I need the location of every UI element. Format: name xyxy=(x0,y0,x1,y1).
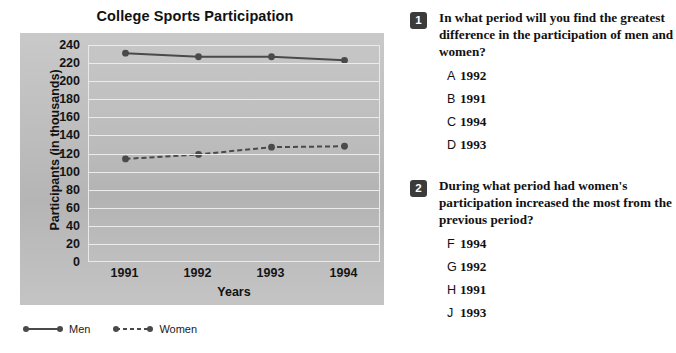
question-2-option-f[interactable]: F 1994 xyxy=(447,236,676,252)
question-1: 1 In what period will you find the great… xyxy=(408,10,676,160)
question-1-body: In what period will you find the greates… xyxy=(439,10,676,153)
option-text: 1994 xyxy=(460,236,486,252)
question-1-option-b[interactable]: B 1991 xyxy=(447,91,676,107)
chart-panel: College Sports Participation Participant… xyxy=(0,0,400,353)
option-letter: F xyxy=(447,237,460,251)
option-text: 1994 xyxy=(460,114,486,130)
option-text: 1991 xyxy=(460,91,486,107)
x-axis-label: Years xyxy=(88,285,380,299)
question-1-options: A 1992 B 1991 C 1994 D 1993 xyxy=(447,68,676,153)
option-letter: C xyxy=(447,115,460,129)
gridline xyxy=(89,244,379,245)
x-tick-label: 1994 xyxy=(330,266,358,280)
series-line-men xyxy=(126,53,345,60)
question-2-number-badge: 2 xyxy=(410,180,427,197)
y-tick-label: 160 xyxy=(24,110,84,124)
question-1-option-a[interactable]: A 1992 xyxy=(447,68,676,84)
gridline xyxy=(89,135,379,136)
y-tick-label: 120 xyxy=(24,147,84,161)
question-1-option-c[interactable]: C 1994 xyxy=(447,114,676,130)
data-point-women xyxy=(122,156,129,163)
data-point-women xyxy=(341,143,348,150)
option-letter: A xyxy=(447,69,460,83)
gridline xyxy=(89,190,379,191)
question-2-body: During what period had women's participa… xyxy=(439,178,676,321)
chart-legend: Men Women xyxy=(22,323,197,335)
y-tick-label: 100 xyxy=(24,165,84,179)
x-tick-label: 1991 xyxy=(111,266,139,280)
gridline xyxy=(89,99,379,100)
y-tick-label: 240 xyxy=(24,38,84,52)
gridline xyxy=(89,154,379,155)
y-tick-label: 200 xyxy=(24,74,84,88)
y-tick-label: 20 xyxy=(24,237,84,251)
data-point-men xyxy=(268,53,275,60)
option-text: 1993 xyxy=(460,305,486,321)
option-letter: D xyxy=(447,138,460,152)
option-text: 1992 xyxy=(460,68,486,84)
question-2-stem: During what period had women's participa… xyxy=(439,178,676,229)
option-text: 1991 xyxy=(460,282,486,298)
data-point-men xyxy=(122,50,129,57)
questions-panel: 1 In what period will you find the great… xyxy=(408,0,676,353)
question-2-option-g[interactable]: G 1992 xyxy=(447,259,676,275)
legend-label-men: Men xyxy=(69,323,90,335)
legend-item-men: Men xyxy=(22,323,90,335)
legend-line-solid-icon xyxy=(22,324,64,334)
x-tick-label: 1993 xyxy=(257,266,285,280)
y-axis-ticks: 240220200180160140120100806040200 xyxy=(20,45,84,262)
gridline xyxy=(89,226,379,227)
question-1-number-badge: 1 xyxy=(410,12,427,29)
y-tick-label: 220 xyxy=(24,56,84,70)
chart-card: Participants (in thousands) 240220200180… xyxy=(20,33,384,305)
gridline xyxy=(89,81,379,82)
option-text: 1993 xyxy=(460,137,486,153)
data-point-men xyxy=(195,53,202,60)
question-2-option-j[interactable]: J 1993 xyxy=(447,305,676,321)
gridline xyxy=(89,208,379,209)
gridline xyxy=(89,45,379,46)
question-2-option-h[interactable]: H 1991 xyxy=(447,282,676,298)
question-2: 2 During what period had women's partici… xyxy=(408,178,676,328)
question-1-option-d[interactable]: D 1993 xyxy=(447,137,676,153)
y-tick-label: 40 xyxy=(24,219,84,233)
legend-label-women: Women xyxy=(159,323,197,335)
option-letter: G xyxy=(447,260,460,274)
option-text: 1992 xyxy=(460,259,486,275)
y-tick-label: 180 xyxy=(24,92,84,106)
x-axis-ticks: 1991199219931994 xyxy=(88,266,380,284)
y-tick-label: 60 xyxy=(24,201,84,215)
gridline xyxy=(89,63,379,64)
gridline xyxy=(89,117,379,118)
x-tick-label: 1992 xyxy=(184,266,212,280)
gridline xyxy=(89,172,379,173)
option-letter: B xyxy=(447,92,460,106)
legend-item-women: Women xyxy=(112,323,197,335)
plot-area xyxy=(88,45,380,262)
chart-title: College Sports Participation xyxy=(0,8,390,24)
data-point-women xyxy=(268,144,275,151)
y-tick-label: 140 xyxy=(24,128,84,142)
question-2-options: F 1994 G 1992 H 1991 J 1993 xyxy=(447,236,676,321)
y-tick-label: 0 xyxy=(24,255,84,269)
legend-line-dashed-icon xyxy=(112,324,154,334)
y-tick-label: 80 xyxy=(24,183,84,197)
question-1-stem: In what period will you find the greates… xyxy=(439,10,676,61)
option-letter: H xyxy=(447,283,460,297)
option-letter: J xyxy=(447,306,460,320)
